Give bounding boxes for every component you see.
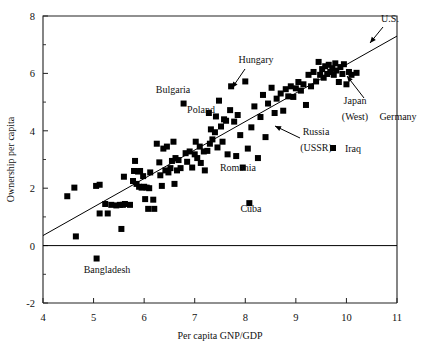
- data-point: [212, 129, 218, 135]
- axis-titles: Per capita GNP/GDPOwnership per capita: [5, 116, 263, 341]
- annotation-bulgaria: Bulgaria: [156, 84, 191, 95]
- annotation-japan: Japan: [344, 95, 367, 106]
- data-point: [260, 92, 266, 98]
- data-point: [137, 168, 143, 174]
- data-point: [94, 256, 100, 262]
- data-points: [64, 59, 359, 262]
- data-point: [269, 85, 275, 91]
- data-point: [105, 210, 111, 216]
- x-tick-label-6: 6: [142, 312, 147, 323]
- data-point: [280, 108, 286, 114]
- data-point: [181, 101, 187, 107]
- data-point: [170, 139, 176, 145]
- data-point: [316, 59, 322, 65]
- y-tick-label--2: -2: [26, 298, 35, 309]
- annotation-romania: Romania: [220, 162, 257, 173]
- data-point: [220, 139, 226, 145]
- data-point: [341, 61, 347, 67]
- annotation-germany: Germany: [379, 111, 416, 122]
- data-point: [178, 165, 184, 171]
- data-point: [255, 155, 261, 161]
- annotation-poland: Poland: [187, 104, 215, 115]
- y-tick-label-6: 6: [30, 68, 35, 79]
- data-point: [354, 70, 360, 76]
- data-point: [272, 110, 278, 116]
- data-point: [154, 141, 160, 147]
- x-tick-label-4: 4: [40, 312, 46, 323]
- data-point: [265, 101, 271, 107]
- data-point: [218, 123, 224, 129]
- annotation-hungary-arrow-head: [232, 82, 238, 88]
- x-tick-label-10: 10: [341, 312, 352, 323]
- annotation-ussr: (USSR): [300, 142, 332, 154]
- data-point: [225, 151, 231, 157]
- data-point: [202, 167, 208, 173]
- data-point: [127, 202, 133, 208]
- y-tick-label-4: 4: [30, 126, 36, 137]
- data-point: [303, 102, 309, 108]
- data-point: [156, 159, 162, 165]
- data-point: [171, 181, 177, 187]
- data-point: [263, 134, 269, 140]
- data-point: [142, 196, 148, 202]
- data-point: [343, 81, 349, 87]
- data-point: [198, 160, 204, 166]
- data-point: [214, 144, 220, 150]
- data-point: [313, 78, 319, 84]
- annotation-bangladesh: Bangladesh: [84, 264, 131, 275]
- x-tick-label-7: 7: [192, 312, 197, 323]
- annotation-hungary: Hungary: [239, 54, 274, 65]
- x-tick-label-9: 9: [293, 312, 298, 323]
- plot-canvas: 4567891011-202468 U.S.HungaryBulgariaPol…: [0, 0, 430, 350]
- data-point: [231, 119, 237, 125]
- data-point: [274, 96, 280, 102]
- data-point: [339, 71, 345, 77]
- data-point: [251, 103, 257, 109]
- data-point: [290, 94, 296, 100]
- data-point: [336, 79, 342, 85]
- data-point: [300, 81, 306, 87]
- data-point: [248, 124, 254, 130]
- data-point: [298, 88, 304, 94]
- data-point: [237, 132, 243, 138]
- tick-labels: 4567891011-202468: [26, 11, 402, 323]
- y-axis-title: Ownership per capita: [5, 116, 16, 202]
- scatter-plot-figure: 4567891011-202468 U.S.HungaryBulgariaPol…: [0, 0, 430, 350]
- annotation-west: (West): [342, 111, 368, 123]
- data-point: [64, 193, 70, 199]
- data-point: [97, 182, 103, 188]
- data-point: [146, 185, 152, 191]
- data-point: [184, 159, 190, 165]
- data-point: [189, 165, 195, 171]
- data-point: [73, 233, 79, 239]
- data-point: [245, 146, 251, 152]
- data-point: [204, 148, 210, 154]
- data-point: [257, 114, 263, 120]
- data-point: [150, 197, 156, 203]
- data-point: [209, 136, 215, 142]
- x-tick-label-5: 5: [91, 312, 96, 323]
- data-point: [71, 185, 77, 191]
- data-point: [159, 183, 165, 189]
- data-point: [147, 169, 153, 175]
- data-point: [118, 226, 124, 232]
- data-point: [132, 158, 138, 164]
- y-tick-label-2: 2: [30, 183, 35, 194]
- data-point: [121, 174, 127, 180]
- data-point: [242, 78, 248, 84]
- x-tick-label-11: 11: [392, 312, 402, 323]
- data-point: [151, 206, 157, 212]
- data-point: [140, 173, 146, 179]
- y-tick-label-8: 8: [30, 11, 35, 22]
- data-point: [97, 210, 103, 216]
- data-point: [164, 144, 170, 150]
- data-point: [227, 107, 233, 113]
- data-point: [233, 153, 239, 159]
- annotation-russia: Russia: [303, 126, 330, 137]
- data-point: [235, 112, 241, 118]
- y-tick-label-0: 0: [30, 241, 35, 252]
- x-axis-title: Per capita GNP/GDP: [178, 330, 263, 341]
- annotation-labels: U.S.HungaryBulgariaPolandJapan(West)Germ…: [84, 13, 417, 275]
- annotation-cuba: Cuba: [240, 203, 262, 214]
- data-point: [102, 201, 108, 207]
